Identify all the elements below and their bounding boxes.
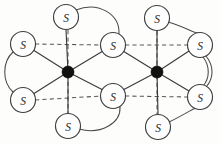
s-top-right: S: [145, 6, 170, 31]
s-bottom-right: S: [146, 115, 171, 140]
arc-left-ring: [5, 52, 13, 92]
arc-top-right-ring: [168, 22, 198, 33]
s-top-left: S: [54, 5, 79, 30]
s-right-lower: S: [188, 85, 213, 110]
sulfur-atom-group: SSSSSSSSSS: [11, 5, 213, 140]
axis-lower-right: [125, 96, 188, 97]
arc-right-ring-outer: [206, 56, 212, 87]
chelate-arc-group: [5, 7, 212, 130]
arc-top-left-ring: [76, 7, 119, 34]
arc-right-ring-inner: [203, 57, 208, 86]
s-top-left-label: S: [63, 12, 69, 24]
bond-ml-stopleft: [66, 30, 68, 73]
molecular-structure-svg: SSSSSSSSSS: [0, 0, 220, 144]
s-right-upper: S: [188, 33, 213, 58]
s-left-upper-label: S: [20, 39, 26, 51]
structure-diagram: SSSSSSSSSS: [0, 0, 220, 144]
s-bottom-right-label: S: [155, 122, 161, 134]
s-bottom-left: S: [56, 114, 81, 139]
arc-bottom-right-ring: [169, 108, 199, 122]
s-left-lower: S: [11, 88, 36, 113]
s-bridge-lower: S: [101, 84, 126, 109]
s-left-lower-label: S: [20, 95, 26, 107]
metal-right: [151, 66, 163, 78]
s-bridge-upper: S: [101, 33, 126, 58]
s-right-upper-label: S: [197, 40, 203, 52]
s-left-upper: S: [11, 32, 36, 57]
s-top-right-label: S: [154, 13, 160, 25]
metal-left: [62, 66, 74, 78]
s-right-lower-label: S: [197, 92, 203, 104]
s-bottom-left-label: S: [65, 121, 71, 133]
s-bridge-lower-label: S: [110, 91, 116, 103]
s-bridge-upper-label: S: [110, 40, 116, 52]
arc-bottom-left-ring: [79, 107, 120, 131]
